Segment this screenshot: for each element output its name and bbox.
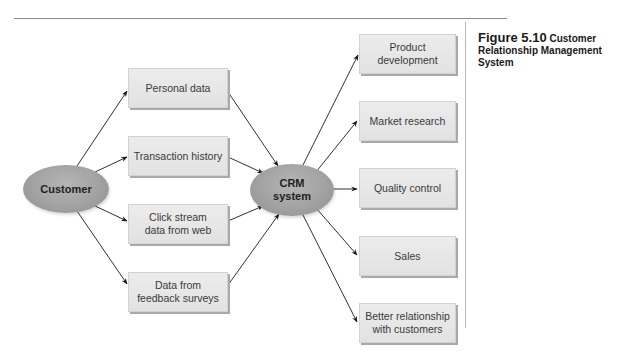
arrow-customer-transaction-history xyxy=(93,157,127,173)
figure-title-line2: Relationship Management xyxy=(478,45,623,57)
figure-caption: Figure 5.10 Customer Relationship Manage… xyxy=(478,31,623,69)
output-box-market-research: Market research xyxy=(359,101,456,141)
arrow-crm-product-development xyxy=(303,55,358,165)
output-label: Better relationship with customers xyxy=(365,310,450,336)
arrow-crm-sales xyxy=(316,208,357,255)
arrow-transaction-history-crm xyxy=(228,157,263,173)
input-label: Click stream data from web xyxy=(145,211,212,237)
output-label: Quality control xyxy=(374,182,441,195)
figure-number: Figure 5.10 xyxy=(478,30,547,45)
input-box-click-stream: Click stream data from web xyxy=(128,204,228,244)
input-box-transaction-history: Transaction history xyxy=(128,136,228,176)
arrow-crm-better-relationship xyxy=(303,215,357,322)
crm-system-node: CRM system xyxy=(250,164,334,216)
figure-title-line3: System xyxy=(478,57,623,69)
arrow-personal-data-crm xyxy=(228,92,278,166)
customer-node: Customer xyxy=(23,165,109,213)
customer-node-label: Customer xyxy=(40,183,91,196)
figure-canvas: Customer CRM system Personal data Transa… xyxy=(0,0,626,364)
arrow-feedback-crm xyxy=(228,214,279,285)
crm-system-node-label: CRM system xyxy=(273,177,311,203)
figure-title-line1: Customer xyxy=(549,33,596,44)
output-label: Market research xyxy=(370,115,446,128)
input-box-feedback-surveys: Data from feedback surveys xyxy=(128,272,228,312)
arrow-customer-click-stream xyxy=(93,205,127,221)
output-box-quality-control: Quality control xyxy=(359,168,456,208)
output-box-product-development: Product development xyxy=(359,34,456,74)
input-label: Data from feedback surveys xyxy=(137,279,219,305)
output-label: Sales xyxy=(394,250,420,263)
arrow-click-stream-crm xyxy=(228,206,263,221)
arrow-customer-feedback xyxy=(77,211,127,284)
input-label: Personal data xyxy=(146,82,211,95)
input-label: Transaction history xyxy=(134,150,222,163)
arrow-customer-personal-data xyxy=(77,91,127,166)
arrow-crm-market-research xyxy=(316,121,357,172)
output-label: Product development xyxy=(377,41,437,67)
output-box-better-relationship: Better relationship with customers xyxy=(359,303,456,343)
input-box-personal-data: Personal data xyxy=(128,68,228,108)
output-box-sales: Sales xyxy=(359,236,456,276)
